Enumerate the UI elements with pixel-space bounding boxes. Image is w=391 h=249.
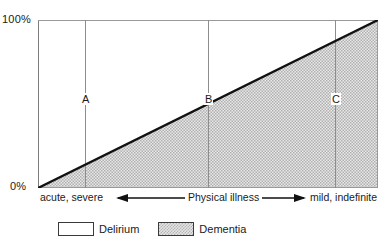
y-axis-tick-label-top: 100% (2, 13, 31, 25)
marker-label-b: B (204, 93, 213, 105)
y-axis-tick-label-bottom: 0% (10, 180, 26, 192)
x-axis-left-label: acute, severe (40, 191, 103, 203)
marker-label-a: A (81, 93, 90, 105)
legend-swatch-dementia-icon (158, 222, 194, 236)
marker-label-c: C (331, 93, 341, 105)
legend-swatch-delirium-icon (58, 222, 94, 236)
legend-label-dementia: Dementia (199, 223, 246, 235)
chart-figure: 100% 0% (0, 0, 391, 249)
right-arrow-icon (262, 194, 306, 202)
x-axis-annotation: acute, severe Physical illness mild, ind… (38, 190, 386, 206)
chart-legend: Delirium Dementia (58, 222, 246, 236)
legend-item-dementia: Dementia (158, 222, 246, 236)
legend-label-delirium: Delirium (99, 223, 139, 235)
x-axis-right-label: mild, indefinite (310, 191, 377, 203)
x-axis-center-label: Physical illness (188, 191, 259, 203)
legend-item-delirium: Delirium (58, 222, 139, 236)
left-arrow-icon (116, 194, 185, 202)
